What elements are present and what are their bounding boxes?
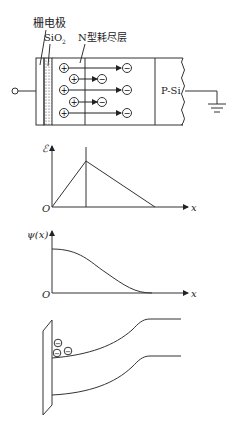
svg-text:SiO: SiO — [44, 32, 62, 43]
charge-row: + − — [60, 109, 132, 119]
origin-label: O — [42, 203, 50, 214]
charge-pairs: + − + − + − + − — [60, 64, 132, 119]
negative-charge-icon: − — [99, 98, 106, 107]
charge-row: + − — [70, 75, 107, 85]
electron-sign: − — [54, 350, 60, 358]
oxide-slab — [43, 320, 52, 415]
positive-ion-icon: + — [61, 86, 68, 95]
electron-sign: − — [55, 340, 61, 348]
svg-text:2: 2 — [62, 38, 66, 45]
oxide-label: SiO 2 — [44, 32, 66, 45]
valence-band — [52, 356, 181, 395]
negative-charge-icon: − — [99, 75, 106, 84]
depletion-leader-line — [80, 44, 85, 63]
depletion-layer-label: N型耗尽层 — [78, 31, 127, 43]
gate-electrode-label: 栅电极 — [33, 16, 66, 30]
gate-electrode — [36, 58, 44, 125]
negative-charge-icon: − — [124, 64, 131, 73]
device-cross-section: 栅电极 SiO 2 N型耗尽层 P-Si + — [12, 16, 226, 125]
y-axis-label: ℰ — [42, 143, 49, 154]
oxide-layer — [44, 58, 52, 125]
mos-depletion-figure: 栅电极 SiO 2 N型耗尽层 P-Si + — [0, 0, 238, 427]
charge-row: + − — [60, 86, 132, 96]
negative-charge-icon: − — [124, 86, 131, 95]
wavy-edge — [182, 58, 185, 125]
electric-field-plot: ℰ x O — [42, 143, 197, 214]
positive-ion-icon: + — [61, 64, 68, 73]
field-curve — [52, 161, 155, 207]
positive-ion-icon: + — [71, 75, 78, 84]
ground-wire — [185, 91, 217, 104]
electrons: − − − — [53, 339, 72, 358]
input-terminal-icon — [12, 88, 18, 94]
positive-ion-icon: + — [61, 109, 68, 118]
negative-charge-icon: − — [124, 109, 131, 118]
substrate-label: P-Si — [161, 85, 181, 96]
potential-curve — [52, 249, 152, 293]
potential-plot: ψ(x) x O — [27, 229, 197, 300]
positive-ion-icon: + — [71, 98, 78, 107]
origin-label: O — [42, 289, 50, 300]
x-axis-label: x — [191, 288, 197, 299]
charge-row: + − — [70, 98, 107, 108]
electron-sign: − — [65, 348, 71, 356]
x-axis-label: x — [191, 202, 197, 213]
charge-row: + − — [60, 64, 132, 74]
y-axis-label: ψ(x) — [27, 229, 48, 240]
band-diagram: − − − — [43, 319, 181, 415]
